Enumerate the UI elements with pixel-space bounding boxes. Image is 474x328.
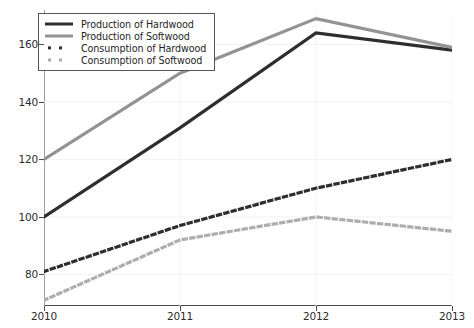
legend-item: Production of Softwood (44, 30, 206, 42)
x-axis-tick-label: 2011 (167, 310, 193, 322)
legend-item-label: Consumption of Hardwood (81, 43, 206, 54)
dotted-line-icon (44, 55, 74, 66)
x-axis-tick-label: 2010 (31, 310, 57, 322)
y-axis-tick-mark (39, 44, 44, 45)
x-axis-tick-label: 2012 (303, 310, 329, 322)
y-axis-tick-mark (39, 159, 44, 160)
y-axis-tick-label: 160 (19, 38, 38, 50)
y-axis-tick-mark (39, 274, 44, 275)
chart-figure: 80100120140160 Production of HardwoodPro… (0, 0, 474, 328)
legend-item-label: Production of Hardwood (81, 19, 194, 30)
y-axis-tick-mark (39, 217, 44, 218)
dotted-line-icon (44, 43, 74, 54)
x-axis-tick-mark (452, 306, 453, 311)
series-line (44, 217, 452, 300)
chart-legend: Production of HardwoodProduction of Soft… (38, 13, 215, 71)
solid-line-icon (44, 19, 74, 30)
y-axis-tick-label: 80 (25, 268, 38, 280)
y-axis-tick-label: 120 (19, 153, 38, 165)
legend-item: Consumption of Softwood (44, 54, 206, 66)
legend-item-label: Production of Softwood (81, 31, 190, 42)
y-axis-tick-mark (39, 102, 44, 103)
x-axis-tick-mark (180, 306, 181, 311)
x-axis-tick-mark (316, 306, 317, 311)
legend-item-label: Consumption of Softwood (81, 55, 202, 66)
solid-line-icon (44, 31, 74, 42)
y-axis-tick-label: 140 (19, 96, 38, 108)
y-axis-tick-labels: 80100120140160 (0, 10, 38, 306)
x-axis-tick-label: 2013 (439, 310, 465, 322)
y-axis-tick-label: 100 (19, 211, 38, 223)
legend-item: Production of Hardwood (44, 18, 206, 30)
legend-item: Consumption of Hardwood (44, 42, 206, 54)
x-axis-tick-mark (44, 306, 45, 311)
